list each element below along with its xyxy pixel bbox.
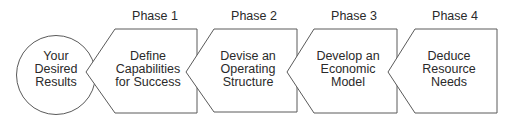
phase-1-text-line: for Success	[103, 76, 193, 89]
circle-text-line: Results	[16, 76, 96, 89]
phase-3-text: Develop an Economic Model	[303, 50, 393, 89]
phase-4-label: Phase 4	[415, 9, 495, 24]
phase-4-text-line: Needs	[404, 76, 494, 89]
phase-3-label: Phase 3	[314, 9, 394, 24]
phase-2-label: Phase 2	[214, 9, 294, 24]
phase-1-text: Define Capabilities for Success	[103, 50, 193, 89]
phase-process-diagram: Phase 1 Phase 2 Phase 3 Phase 4 Your Des…	[0, 0, 512, 123]
phase-4-text: Deduce Resource Needs	[404, 50, 494, 89]
phase-2-text: Devise an Operating Structure	[203, 50, 293, 89]
phase-3-text-line: Model	[303, 76, 393, 89]
phase-1-label: Phase 1	[115, 9, 195, 24]
desired-results-text: Your Desired Results	[16, 50, 96, 89]
phase-2-text-line: Structure	[203, 76, 293, 89]
